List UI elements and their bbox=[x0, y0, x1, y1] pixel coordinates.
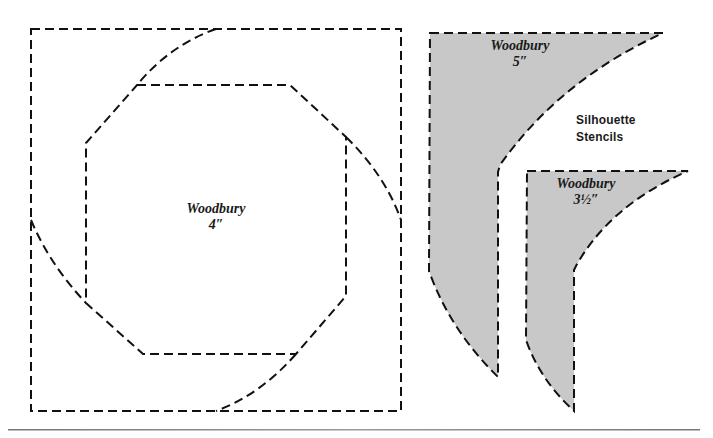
arc-right bbox=[346, 137, 401, 220]
stencil-4in-name: Woodbury bbox=[166, 201, 266, 217]
stencil-5in-label: Woodbury 5″ bbox=[470, 38, 570, 70]
bottom-rule bbox=[8, 429, 700, 431]
stencil-3half-name: Woodbury bbox=[536, 176, 636, 192]
arc-top bbox=[137, 29, 216, 85]
stencil-5in-size: 5″ bbox=[470, 54, 570, 70]
arc-left bbox=[31, 220, 86, 303]
arc-bottom bbox=[216, 354, 296, 411]
title-line-1: Silhouette bbox=[576, 111, 636, 128]
stencil-3half-size: 3½″ bbox=[536, 192, 636, 208]
stencil-3half-label: Woodbury 3½″ bbox=[536, 176, 636, 208]
stencil-5in-name: Woodbury bbox=[470, 38, 570, 54]
stencil-4in-label: Woodbury 4″ bbox=[166, 201, 266, 233]
stencil-4in-size: 4″ bbox=[166, 217, 266, 233]
stencil-diagram bbox=[0, 0, 713, 438]
title-line-2: Stencils bbox=[576, 128, 636, 145]
diagram-title: Silhouette Stencils bbox=[576, 111, 636, 145]
